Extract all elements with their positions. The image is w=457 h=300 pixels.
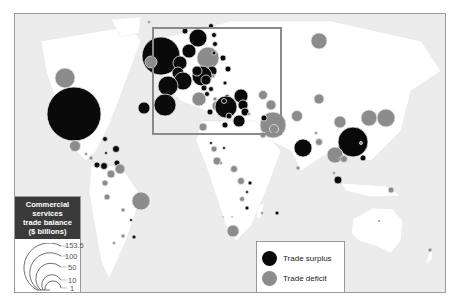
symbol-canada [55, 68, 75, 88]
symbol-brazil [132, 192, 150, 210]
color-legend: Trade surplus Trade deficit [256, 241, 345, 293]
symbol-south-africa [227, 225, 239, 237]
scale-value-100: 100 [65, 252, 78, 261]
deficit-swatch-icon [262, 271, 277, 286]
scale-legend-title: Commercial services trade balance ($ bil… [15, 197, 80, 239]
symbol-japan [377, 109, 395, 127]
surplus-swatch-icon [262, 251, 277, 266]
scale-circles: 153.5 100 50 10 1 [15, 243, 82, 293]
symbol-singapore [334, 176, 342, 184]
symbol-ireland [145, 56, 157, 68]
symbol-mexico [70, 141, 81, 152]
legend-item-deficit: Trade deficit [262, 271, 327, 286]
symbol-usa [47, 87, 101, 141]
australia-landmass [351, 208, 403, 253]
symbol-russia [311, 33, 327, 49]
symbol-germany [197, 47, 219, 69]
symbol-france [158, 76, 178, 96]
symbol-south-korea [361, 110, 377, 126]
scale-value-153: 153.5 [65, 241, 84, 250]
south-america-landmass [89, 166, 141, 279]
symbol-italy [192, 92, 206, 106]
symbol-spain [154, 94, 176, 116]
scale-legend: Commercial services trade balance ($ bil… [14, 196, 81, 293]
scale-value-50: 50 [68, 263, 76, 272]
legend-item-surplus: Trade surplus [262, 251, 332, 266]
scale-value-1: 1 [70, 284, 74, 293]
symbol-india [294, 139, 312, 157]
